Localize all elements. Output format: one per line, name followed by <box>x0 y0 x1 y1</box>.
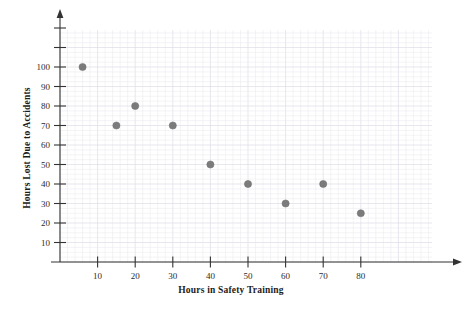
chart-canvas: 1020304050607080102030405060708090100 Ho… <box>0 0 473 310</box>
scatter-plot: 1020304050607080102030405060708090100 Ho… <box>0 0 473 310</box>
y-tick-label-30: 30 <box>41 199 51 209</box>
y-tick-label-70: 70 <box>41 121 51 131</box>
x-axis-title: Hours in Safety Training <box>178 285 284 295</box>
data-point <box>244 180 251 187</box>
tick-marks <box>54 28 361 268</box>
y-tick-label-60: 60 <box>41 140 51 150</box>
axis-titles: Hours in Safety TrainingHours Lost Due t… <box>22 87 284 295</box>
y-tick-label-10: 10 <box>41 238 51 248</box>
x-tick-label-70: 70 <box>319 271 329 281</box>
data-point <box>113 122 120 129</box>
x-tick-label-30: 30 <box>168 271 178 281</box>
y-tick-label-90: 90 <box>41 82 51 92</box>
data-point <box>207 161 214 168</box>
x-tick-label-10: 10 <box>93 271 103 281</box>
data-point <box>132 102 139 109</box>
x-tick-label-60: 60 <box>281 271 291 281</box>
y-tick-label-80: 80 <box>41 101 51 111</box>
x-tick-label-20: 20 <box>131 271 141 281</box>
data-point <box>169 122 176 129</box>
grid-lines <box>60 30 432 262</box>
y-tick-label-100: 100 <box>37 62 51 72</box>
data-point <box>320 180 327 187</box>
y-tick-label-20: 20 <box>41 218 51 228</box>
y-tick-label-40: 40 <box>41 179 51 189</box>
data-point <box>79 63 86 70</box>
data-point <box>282 200 289 207</box>
x-tick-label-40: 40 <box>206 271 216 281</box>
y-tick-label-50: 50 <box>41 160 51 170</box>
x-tick-label-80: 80 <box>356 271 366 281</box>
x-tick-label-50: 50 <box>244 271 254 281</box>
tick-labels: 1020304050607080102030405060708090100 <box>37 62 366 281</box>
data-point <box>357 210 364 217</box>
y-axis-title: Hours Lost Due to Accidents <box>22 87 32 209</box>
